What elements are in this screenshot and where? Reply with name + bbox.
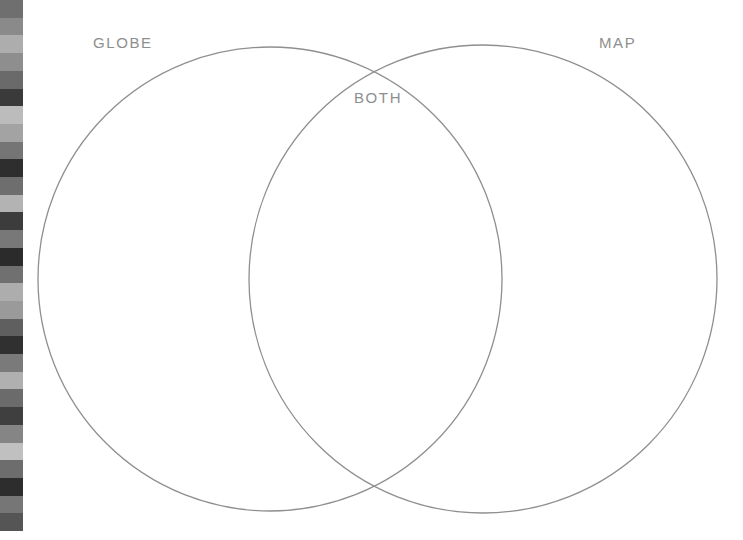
venn-circle-map (249, 45, 717, 513)
calibration-swatch (0, 177, 23, 195)
worksheet-page: GLOBE MAP BOTH (0, 0, 743, 540)
calibration-swatch (0, 496, 23, 514)
calibration-swatch (0, 443, 23, 461)
venn-label-both: BOTH (354, 89, 402, 106)
calibration-swatch (0, 513, 23, 531)
calibration-swatch (0, 266, 23, 284)
calibration-swatch (0, 301, 23, 319)
calibration-swatch (0, 478, 23, 496)
calibration-swatch (0, 460, 23, 478)
calibration-swatch (0, 89, 23, 107)
calibration-swatch (0, 248, 23, 266)
calibration-swatch (0, 389, 23, 407)
calibration-swatch (0, 71, 23, 89)
calibration-swatch (0, 124, 23, 142)
calibration-swatch (0, 18, 23, 36)
calibration-swatch (0, 159, 23, 177)
calibration-swatch (0, 354, 23, 372)
calibration-swatch (0, 195, 23, 213)
calibration-swatch (0, 425, 23, 443)
calibration-swatch (0, 35, 23, 53)
calibration-swatch (0, 230, 23, 248)
calibration-swatch (0, 106, 23, 124)
venn-diagram (0, 0, 743, 540)
venn-label-map: MAP (599, 34, 636, 51)
calibration-swatch (0, 142, 23, 160)
calibration-swatch (0, 212, 23, 230)
calibration-swatch (0, 0, 23, 18)
calibration-swatch (0, 372, 23, 390)
calibration-swatch (0, 336, 23, 354)
calibration-swatch (0, 283, 23, 301)
venn-label-globe: GLOBE (93, 34, 153, 51)
calibration-swatch (0, 53, 23, 71)
calibration-swatch (0, 319, 23, 337)
calibration-swatch (0, 407, 23, 425)
grayscale-calibration-strip (0, 0, 23, 531)
venn-circle-globe (38, 47, 502, 511)
